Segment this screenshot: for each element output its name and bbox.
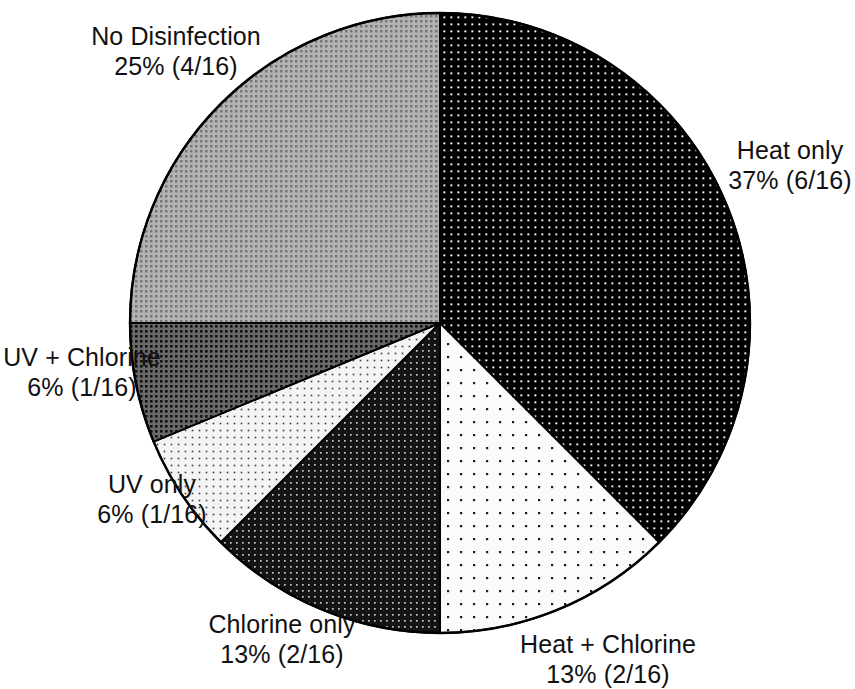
slice-label-heat-chlorine-name: Heat + Chlorine [488, 630, 728, 660]
slice-label-no-disinfection-name: No Disinfection [36, 22, 316, 52]
slice-label-no-disinfection: No Disinfection 25% (4/16) [36, 22, 316, 81]
slice-label-heat-chlorine-value: 13% (2/16) [488, 660, 728, 689]
slice-label-heat-only-name: Heat only [690, 136, 855, 166]
slice-label-uv-only-value: 6% (1/16) [52, 500, 252, 530]
slice-label-heat-only: Heat only 37% (6/16) [690, 136, 855, 195]
slice-label-uv-only-name: UV only [52, 470, 252, 500]
slice-label-uv-chlorine-name: UV + Chlorine [2, 343, 162, 373]
slice-label-heat-only-value: 37% (6/16) [690, 166, 855, 196]
slice-label-uv-chlorine: UV + Chlorine 6% (1/16) [2, 343, 162, 402]
slice-label-chlorine-only: Chlorine only 13% (2/16) [172, 610, 392, 669]
slice-label-uv-chlorine-value: 6% (1/16) [2, 373, 162, 403]
slice-label-heat-chlorine: Heat + Chlorine 13% (2/16) [488, 630, 728, 689]
slice-label-chlorine-only-name: Chlorine only [172, 610, 392, 640]
slice-label-uv-only: UV only 6% (1/16) [52, 470, 252, 529]
slice-label-no-disinfection-value: 25% (4/16) [36, 52, 316, 82]
slice-label-chlorine-only-value: 13% (2/16) [172, 640, 392, 670]
